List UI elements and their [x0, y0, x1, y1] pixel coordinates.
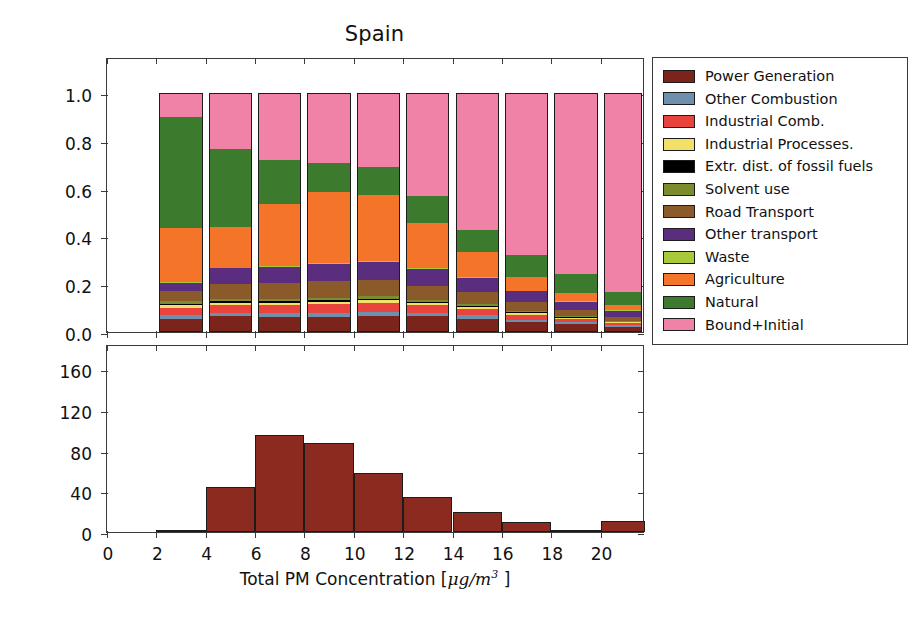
stack-segment [160, 94, 201, 117]
x-tick-top-7 [453, 331, 454, 338]
x-tick-label: 0 [103, 544, 114, 564]
legend-item: Bound+Initial [663, 314, 899, 337]
stack-segment [555, 324, 596, 331]
x-tick-bottom-5: 10 [354, 531, 355, 538]
legend-label: Natural [705, 295, 758, 310]
stack-segment [457, 292, 498, 304]
y-tick-bottom-right-2 [638, 453, 644, 454]
x-tick-bottom-4: 8 [304, 531, 305, 538]
x-tick-bottom-7: 14 [453, 531, 454, 538]
legend-swatch-icon [663, 296, 695, 309]
y-tick-label-bottom: 40 [70, 484, 92, 504]
stack-segment [308, 264, 349, 281]
x-tick-top-2 [206, 331, 207, 338]
stack-segment [506, 322, 547, 331]
stack-segment [407, 223, 448, 269]
y-tick-bottom-4: 160 [101, 371, 108, 372]
x-tick-bottom-8: 16 [502, 531, 503, 538]
stack-segment [160, 228, 201, 283]
x-tick-bottom-upper-5 [354, 345, 355, 351]
stacked-bar [604, 93, 642, 332]
legend-label: Other Combustion [705, 92, 838, 107]
stack-segment [308, 304, 349, 312]
stack-segment [210, 305, 251, 312]
stack-segment [506, 277, 547, 290]
x-tick-bottom-1: 2 [156, 531, 157, 538]
stack-segment [308, 317, 349, 331]
stacked-bar-plot-area: 0.00.20.40.60.81.0 [106, 58, 644, 333]
histogram-plot-area: 0408012016002468101214161820 [106, 345, 644, 533]
stack-segment [259, 305, 300, 313]
legend-item: Natural [663, 291, 899, 314]
x-tick-label: 20 [591, 544, 613, 564]
x-tick-top-upper-5 [354, 58, 355, 64]
stacked-bar [406, 93, 449, 332]
y-tick-label-top: 0.4 [65, 229, 92, 249]
legend-item: Solvent use [663, 178, 899, 201]
stacked-bar [209, 93, 252, 332]
stack-segment [407, 286, 448, 300]
legend: Power GenerationOther CombustionIndustri… [652, 57, 908, 345]
stack-segment [308, 94, 349, 163]
stack-segment [605, 94, 641, 292]
x-tick-top-4 [304, 331, 305, 338]
legend-swatch-icon [663, 228, 695, 241]
x-tick-bottom-upper-9 [551, 345, 552, 351]
stack-segment [160, 308, 201, 315]
y-tick-bottom-right-4 [638, 371, 644, 372]
legend-label: Industrial Comb. [705, 114, 825, 129]
stack-segment [358, 316, 399, 331]
legend-item: Road Transport [663, 201, 899, 224]
stack-segment [457, 230, 498, 252]
x-axis-label-tail: ] [498, 569, 510, 589]
stack-segment [358, 262, 399, 280]
x-tick-bottom-upper-7 [453, 345, 454, 351]
x-tick-bottom-9: 18 [551, 531, 552, 538]
x-tick-label: 10 [344, 544, 366, 564]
y-tick-top-2: 0.4 [101, 238, 108, 239]
stack-segment [160, 291, 201, 301]
x-tick-bottom-2: 4 [206, 531, 207, 538]
legend-swatch-icon [663, 318, 695, 331]
stack-segment [407, 316, 448, 331]
stack-segment [407, 94, 448, 196]
y-tick-top-1: 0.2 [101, 286, 108, 287]
y-tick-label-bottom: 160 [60, 362, 92, 382]
stack-segment [358, 94, 399, 167]
stack-segment [506, 291, 547, 302]
stack-segment [210, 227, 251, 267]
stacked-bar [505, 93, 548, 332]
legend-swatch-icon [663, 70, 695, 83]
stacked-bar [554, 93, 597, 332]
stack-segment [407, 196, 448, 223]
y-tick-label-bottom: 120 [60, 403, 92, 423]
x-tick-bottom-upper-0 [107, 345, 108, 351]
x-tick-bottom-upper-10 [601, 345, 602, 351]
x-tick-label: 16 [492, 544, 514, 564]
x-tick-top-upper-3 [255, 58, 256, 64]
y-tick-top-right-0 [638, 334, 644, 335]
stacked-bar [357, 93, 400, 332]
x-tick-bottom-upper-1 [156, 345, 157, 351]
legend-swatch-icon [663, 92, 695, 105]
stack-segment [259, 267, 300, 284]
x-tick-top-5 [354, 331, 355, 338]
legend-label: Power Generation [705, 69, 834, 84]
y-tick-label-top: 0.6 [65, 182, 92, 202]
legend-swatch-icon [663, 251, 695, 264]
x-axis-unit: μg/m [447, 569, 491, 589]
histogram-bar [601, 521, 645, 532]
x-tick-top-1 [156, 331, 157, 338]
stack-segment [358, 167, 399, 196]
x-tick-label: 12 [393, 544, 415, 564]
y-tick-bottom-right-1 [638, 493, 644, 494]
legend-item: Power Generation [663, 65, 899, 88]
stack-segment [308, 192, 349, 264]
page-title: Spain [106, 22, 643, 46]
stack-segment [358, 280, 399, 297]
x-tick-top-upper-4 [304, 58, 305, 64]
histogram-bar [403, 497, 452, 532]
stack-segment [160, 117, 201, 228]
legend-label: Bound+Initial [705, 318, 804, 333]
x-tick-bottom-upper-2 [206, 345, 207, 351]
